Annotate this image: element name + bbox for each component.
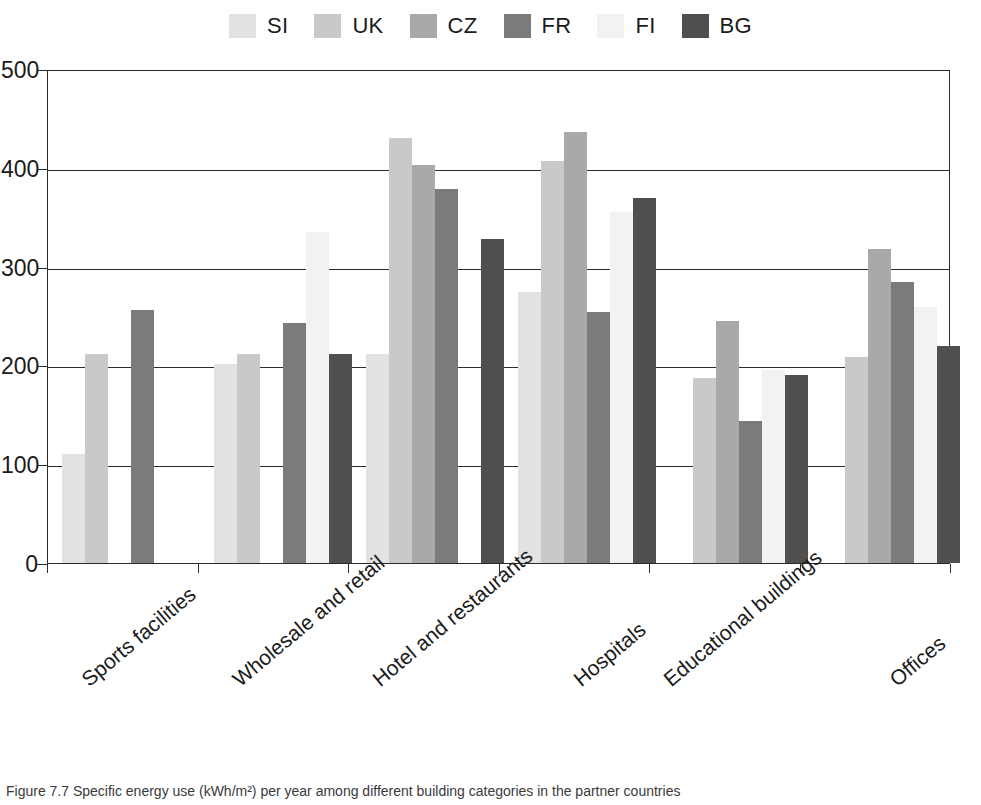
y-tick-mark	[37, 169, 47, 170]
x-axis-category-label: Sports facilities	[77, 582, 201, 691]
chart-page: SIUKCZFRFIBG 0100200300400500 Sports fac…	[0, 0, 981, 805]
bar-slot	[85, 71, 108, 563]
bar-uk	[693, 378, 716, 563]
legend-label: UK	[352, 15, 383, 37]
bar-group	[656, 71, 808, 563]
figure-caption: Figure 7.7 Specific energy use (kWh/m²) …	[6, 783, 976, 801]
bar-bg	[481, 239, 504, 563]
x-axis-category-label: Hospitals	[569, 617, 651, 691]
bar-slot	[283, 71, 306, 563]
bar-slot	[633, 71, 656, 563]
legend-swatch-uk	[314, 14, 341, 38]
bar-si	[214, 364, 237, 563]
legend-swatch-si	[229, 14, 256, 38]
bar-uk	[389, 138, 412, 563]
y-tick-mark	[37, 465, 47, 466]
y-tick-mark	[37, 366, 47, 367]
bar-si	[366, 354, 389, 563]
legend-item-uk: UK	[314, 14, 383, 38]
bar-uk	[85, 354, 108, 563]
legend-item-bg: BG	[682, 14, 752, 38]
bar-slot	[329, 71, 352, 563]
bar-fi	[610, 212, 633, 563]
x-axis-labels: Sports facilitiesWholesale and retailHot…	[0, 575, 981, 725]
bar-groups	[48, 71, 949, 563]
bar-fr	[131, 310, 154, 563]
bar-fi	[306, 232, 329, 563]
bar-slot	[785, 71, 808, 563]
legend-label: FR	[542, 15, 572, 37]
legend-item-fr: FR	[504, 14, 572, 38]
bar-uk	[845, 357, 868, 563]
bar-slot	[739, 71, 762, 563]
bar-slot	[389, 71, 412, 563]
legend-swatch-cz	[410, 14, 437, 38]
bar-uk	[541, 161, 564, 563]
bar-fr	[587, 312, 610, 563]
bar-slot	[716, 71, 739, 563]
legend-item-fi: FI	[597, 14, 655, 38]
y-tick-mark	[37, 70, 47, 71]
y-axis: 0100200300400500	[0, 70, 47, 565]
bar-fr	[435, 189, 458, 563]
bar-slot	[412, 71, 435, 563]
bar-slot	[237, 71, 260, 563]
bar-cz	[564, 132, 587, 563]
bar-slot	[564, 71, 587, 563]
bar-cz	[716, 321, 739, 563]
bar-slot	[762, 71, 785, 563]
y-tick-mark	[37, 268, 47, 269]
legend-label: FI	[635, 15, 655, 37]
bar-uk	[237, 354, 260, 563]
bar-bg	[937, 346, 960, 563]
bar-slot	[62, 71, 85, 563]
bar-fi	[914, 307, 937, 563]
bar-slot	[435, 71, 458, 563]
bar-slot	[914, 71, 937, 563]
bar-slot	[458, 71, 481, 563]
bar-si	[518, 292, 541, 563]
legend-label: BG	[720, 15, 752, 37]
bar-slot	[868, 71, 891, 563]
x-tick-mark	[47, 564, 48, 573]
bar-group	[808, 71, 960, 563]
bar-slot	[154, 71, 177, 563]
bar-fr	[891, 282, 914, 563]
x-tick-mark	[950, 564, 951, 573]
plot-area	[47, 70, 950, 564]
legend-item-cz: CZ	[410, 14, 478, 38]
bar-slot	[131, 71, 154, 563]
bar-slot	[541, 71, 564, 563]
bar-group	[504, 71, 656, 563]
bar-slot	[587, 71, 610, 563]
bar-slot	[214, 71, 237, 563]
bar-fr	[739, 421, 762, 563]
bar-slot	[108, 71, 131, 563]
bar-group	[352, 71, 504, 563]
bar-si	[62, 454, 85, 563]
bar-slot	[693, 71, 716, 563]
bar-cz	[868, 249, 891, 563]
bar-slot	[610, 71, 633, 563]
bar-slot	[260, 71, 283, 563]
bar-slot	[177, 71, 200, 563]
y-tick-mark	[37, 564, 47, 565]
bar-slot	[366, 71, 389, 563]
bar-bg	[329, 354, 352, 563]
bar-slot	[845, 71, 868, 563]
bar-fr	[283, 323, 306, 563]
bar-slot	[518, 71, 541, 563]
x-axis-category-label: Offices	[885, 631, 950, 691]
bar-slot	[481, 71, 504, 563]
bar-cz	[412, 165, 435, 563]
bar-group	[48, 71, 200, 563]
x-tick-mark	[198, 564, 199, 573]
bar-bg	[785, 375, 808, 563]
legend-swatch-fr	[504, 14, 531, 38]
bar-slot	[306, 71, 329, 563]
bar-slot	[822, 71, 845, 563]
legend-label: CZ	[448, 15, 478, 37]
bar-slot	[670, 71, 693, 563]
legend-swatch-bg	[682, 14, 709, 38]
legend-swatch-fi	[597, 14, 624, 38]
